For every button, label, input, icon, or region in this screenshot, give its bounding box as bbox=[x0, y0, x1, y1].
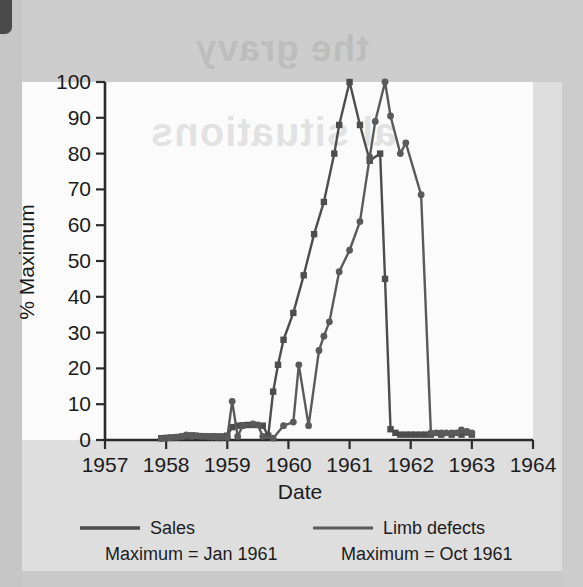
data-point bbox=[301, 272, 307, 278]
y-tick-label: 50 bbox=[68, 249, 91, 272]
y-tick-label: 30 bbox=[68, 321, 91, 344]
data-point bbox=[254, 422, 261, 429]
data-point bbox=[290, 419, 297, 426]
data-point bbox=[382, 276, 388, 282]
data-point bbox=[229, 398, 236, 405]
data-point bbox=[331, 150, 337, 156]
x-tick-label: 1958 bbox=[143, 453, 190, 476]
data-point bbox=[372, 118, 379, 125]
data-point bbox=[275, 362, 281, 368]
y-axis-tick-labels: 0102030405060708090100 bbox=[56, 70, 91, 451]
data-point bbox=[402, 139, 409, 146]
data-point bbox=[336, 122, 342, 128]
data-point bbox=[387, 113, 394, 120]
data-point bbox=[468, 429, 475, 436]
data-point bbox=[412, 431, 418, 437]
data-point bbox=[224, 434, 231, 441]
axis-lines bbox=[105, 82, 533, 440]
x-tick-label: 1963 bbox=[448, 453, 495, 476]
data-series-layer bbox=[158, 79, 475, 442]
x-tick-label: 1964 bbox=[510, 453, 557, 476]
y-tick-label: 100 bbox=[56, 70, 91, 93]
data-point bbox=[234, 433, 241, 440]
y-tick-label: 90 bbox=[68, 106, 91, 129]
data-point bbox=[280, 422, 287, 429]
series-sales bbox=[158, 79, 475, 442]
y-axis-title: % Maximum bbox=[15, 204, 38, 320]
data-point bbox=[346, 79, 352, 85]
legend: Sales Maximum = Jan 1961 Limb defects Ma… bbox=[80, 518, 513, 564]
data-point bbox=[311, 231, 317, 237]
data-point bbox=[259, 433, 266, 440]
series-line bbox=[161, 82, 472, 439]
legend-note-limb-defects: Maximum = Oct 1961 bbox=[341, 544, 513, 564]
x-tick-label: 1959 bbox=[204, 453, 251, 476]
x-axis-ticks bbox=[105, 440, 533, 449]
data-point bbox=[357, 218, 364, 225]
x-tick-label: 1962 bbox=[387, 453, 434, 476]
x-tick-label: 1961 bbox=[326, 453, 373, 476]
scanned-page: the gravy al situations 0102030405060708… bbox=[0, 0, 583, 587]
y-tick-label: 60 bbox=[68, 213, 91, 236]
x-axis-tick-labels: 19571958195919601961196219631964 bbox=[82, 453, 557, 476]
data-point bbox=[397, 431, 403, 437]
data-point bbox=[320, 333, 327, 340]
y-tick-label: 70 bbox=[68, 177, 91, 200]
y-tick-label: 40 bbox=[68, 285, 91, 308]
data-point bbox=[397, 150, 404, 157]
data-point bbox=[280, 337, 286, 343]
data-point bbox=[316, 347, 323, 354]
legend-note-sales: Maximum = Jan 1961 bbox=[105, 544, 278, 564]
data-point bbox=[321, 199, 327, 205]
y-axis-ticks bbox=[96, 82, 105, 440]
data-point bbox=[295, 361, 302, 368]
legend-label-sales: Sales bbox=[150, 518, 195, 538]
data-point bbox=[239, 422, 246, 429]
data-point bbox=[346, 247, 353, 254]
data-point bbox=[366, 154, 373, 161]
data-point bbox=[326, 318, 333, 325]
data-point bbox=[377, 150, 383, 156]
data-point bbox=[382, 79, 389, 86]
x-tick-label: 1960 bbox=[265, 453, 312, 476]
data-point bbox=[270, 388, 276, 394]
data-point bbox=[336, 268, 343, 275]
series-limb-defects bbox=[158, 79, 475, 442]
y-tick-label: 0 bbox=[79, 428, 91, 451]
x-axis-title: Date bbox=[278, 480, 322, 503]
y-tick-label: 20 bbox=[68, 356, 91, 379]
data-point bbox=[305, 422, 312, 429]
data-point bbox=[270, 435, 277, 442]
y-tick-label: 10 bbox=[68, 392, 91, 415]
data-point bbox=[418, 191, 425, 198]
line-chart: 0102030405060708090100 19571958195919601… bbox=[0, 0, 583, 587]
data-point bbox=[357, 122, 363, 128]
x-tick-label: 1957 bbox=[82, 453, 129, 476]
series-line bbox=[161, 82, 472, 438]
legend-label-limb-defects: Limb defects bbox=[383, 518, 485, 538]
data-point bbox=[290, 310, 296, 316]
y-tick-label: 80 bbox=[68, 142, 91, 165]
